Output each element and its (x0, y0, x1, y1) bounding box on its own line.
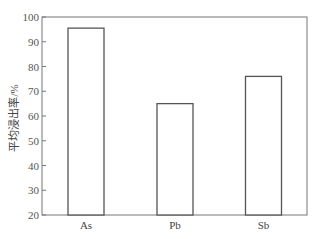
x-tick-label: Sb (258, 219, 270, 231)
bar-chart: 2030405060708090100 AsPbSb 平均浸出率/% (0, 0, 318, 239)
y-tick-label: 20 (28, 209, 40, 221)
bar-sb (246, 76, 282, 215)
bar-pb (157, 104, 193, 215)
y-tick-label: 100 (23, 11, 40, 23)
y-tick-label: 30 (28, 184, 40, 196)
bars (68, 28, 282, 215)
y-tick-label: 70 (28, 85, 40, 97)
y-tick-label: 80 (28, 61, 40, 73)
y-tick-label: 40 (28, 160, 40, 172)
bar-as (68, 28, 104, 215)
y-axis-title: 平均浸出率/% (7, 84, 20, 151)
x-tick-label: Pb (169, 219, 181, 231)
x-axis: AsPbSb (80, 219, 270, 231)
y-tick-label: 60 (28, 110, 40, 122)
y-tick-label: 50 (28, 135, 40, 147)
y-tick-label: 90 (28, 36, 40, 48)
x-tick-label: As (80, 219, 92, 231)
